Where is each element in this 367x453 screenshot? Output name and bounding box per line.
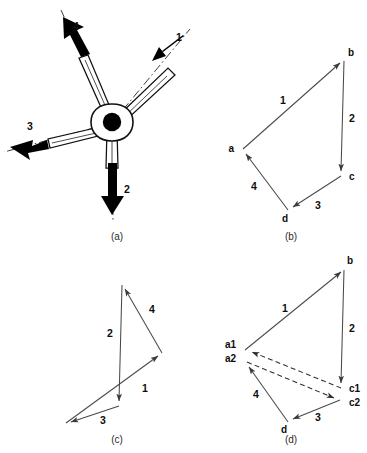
hub (91, 104, 133, 141)
panel-d-edge-1 (245, 272, 341, 350)
panel-a: 1 2 3 4 (a) (4, 10, 190, 242)
force-label-3: 3 (27, 120, 33, 132)
panel-c-edge-label-1: 1 (142, 382, 148, 394)
panel-d-edge-label-2: 2 (349, 322, 355, 334)
panel-b-vertex-b: b (348, 47, 354, 58)
force-label-4: 4 (73, 20, 79, 32)
panel-d-vertex-b: b (347, 255, 353, 266)
panel-d-vertex-a-lower: a2 (225, 353, 237, 364)
force-label-2: 2 (124, 183, 130, 195)
panel-d-edge-label-3: 3 (315, 411, 321, 423)
panel-b-edge-label-3: 3 (315, 199, 321, 211)
panel-d: a1 a2 b c1 c2 d 1 2 3 4 (d) (225, 255, 361, 445)
panel-a-caption: (a) (111, 231, 123, 242)
panel-c-edge-label-3: 3 (100, 414, 106, 426)
panel-d-vertex-c-upper: c1 (349, 383, 361, 394)
panel-d-caption: (d) (285, 434, 297, 445)
panel-d-edge-label-1: 1 (282, 302, 288, 314)
panel-b: a b c d 1 2 3 4 (b) (228, 47, 355, 242)
force-polygon-figure: 1 2 3 4 (a) a b c d 1 2 3 4 (b) 1 4 2 3 … (0, 0, 367, 453)
panel-c-edge-label-2: 2 (107, 327, 113, 339)
panel-b-edge-label-4: 4 (251, 180, 257, 192)
panel-b-edge-label-1: 1 (280, 94, 286, 106)
panel-c-caption: (c) (111, 434, 123, 445)
panel-c-edge-label-4: 4 (149, 303, 155, 315)
panel-d-vertex-c-lower: c2 (349, 397, 361, 408)
panel-c-edge-4 (125, 289, 162, 353)
panel-b-edge-1 (243, 63, 340, 149)
panel-c: 1 4 2 3 (c) (66, 285, 162, 445)
force-arrow-3 (10, 140, 49, 160)
force-label-1: 1 (176, 31, 182, 43)
hub-pin (103, 113, 121, 131)
panel-d-vertex-a-upper: a1 (225, 339, 237, 350)
panel-b-edge-label-2: 2 (349, 112, 355, 124)
panel-d-closing-line-ac (247, 362, 334, 398)
panel-b-vertex-d: d (282, 213, 288, 224)
panel-b-vertex-a: a (228, 143, 234, 154)
panel-b-edge-2 (341, 61, 344, 171)
panel-b-vertex-c: c (349, 171, 355, 182)
panel-d-edge-label-4: 4 (253, 388, 259, 400)
panel-d-edge-2 (341, 270, 344, 383)
force-arrow-2 (101, 163, 124, 215)
panel-b-caption: (b) (285, 231, 297, 242)
